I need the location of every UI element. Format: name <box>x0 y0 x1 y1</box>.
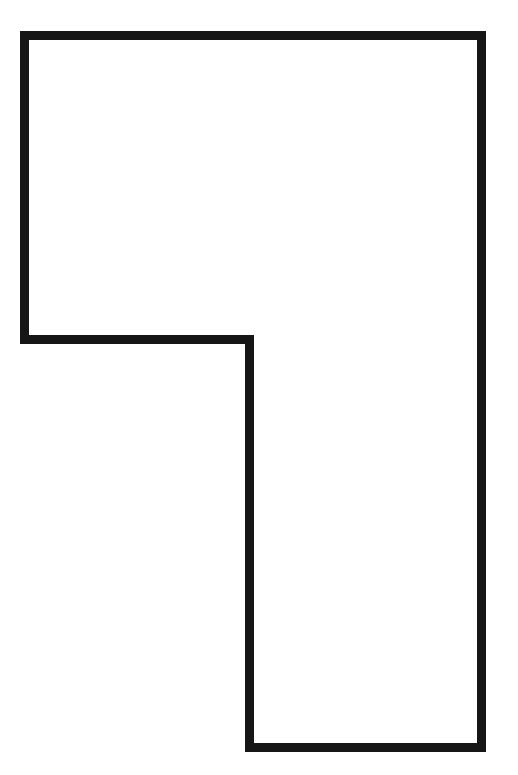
figure-canvas <box>0 0 518 775</box>
canvas-background <box>0 0 518 775</box>
l-shaped-polygon-svg <box>0 0 518 775</box>
